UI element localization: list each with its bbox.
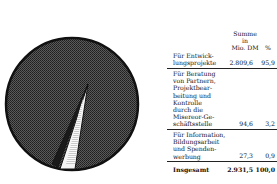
row-label: Für Entwick-lungsprojekte bbox=[173, 52, 233, 66]
row-percent: 95,9 bbox=[255, 59, 275, 66]
total-label: Insgesamt bbox=[173, 166, 233, 173]
row-percent: 0,9 bbox=[255, 152, 275, 159]
total-percent: 100,0 bbox=[255, 166, 275, 173]
header-sum-line3: Mio. DM bbox=[231, 44, 259, 51]
divider bbox=[167, 129, 277, 130]
divider bbox=[167, 68, 277, 69]
row-value: 94,6 bbox=[227, 120, 253, 127]
pie-chart bbox=[2, 24, 142, 184]
row-percent: 3,2 bbox=[255, 120, 275, 127]
row-value: 27,3 bbox=[227, 152, 253, 159]
row-value: 2.809,6 bbox=[227, 59, 253, 66]
legend-table: Summe in Mio. DM % Für Entwick-lungsproj… bbox=[173, 0, 277, 184]
row-label: Für Beratungvon Partnern,Projektbear-bei… bbox=[173, 70, 233, 128]
total-value: 2.931,5 bbox=[227, 166, 253, 173]
divider bbox=[167, 161, 277, 162]
row-label: Für Information,Bildungsarbeitund Spende… bbox=[173, 131, 233, 160]
header-percent: % bbox=[265, 44, 271, 51]
